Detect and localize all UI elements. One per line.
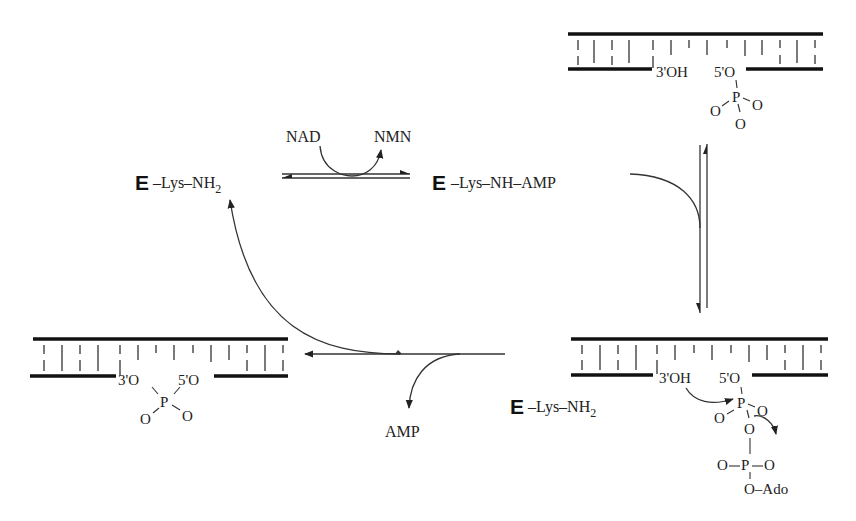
oxygen-right: O xyxy=(182,408,193,424)
oxygen-bottom: O xyxy=(735,116,746,132)
phosphorus: P xyxy=(160,394,168,410)
oxygen-left-1: O xyxy=(714,410,725,426)
oxygen-left-2: O xyxy=(717,457,728,473)
base-pair-ticks xyxy=(44,345,283,375)
three-prime-o: 3'O xyxy=(118,372,139,388)
oxygen-left: O xyxy=(140,411,151,427)
lys-nh2-label: –Lys–NH2 xyxy=(152,174,221,196)
enzyme-label: E xyxy=(510,395,524,418)
amp-release-arrow xyxy=(409,354,460,408)
enzyme-label: E xyxy=(135,171,149,194)
bridge-oxygen: O xyxy=(744,421,755,437)
adenylate-transfer-curve xyxy=(630,174,700,228)
base-pair-ticks xyxy=(578,40,815,68)
oxygen-left: O xyxy=(710,103,721,119)
enzyme-label: E xyxy=(432,171,446,194)
lys-nh2-label: –Lys–NH2 xyxy=(527,398,596,420)
o-adenosine: O–Ado xyxy=(744,481,788,497)
nad-exchange: NAD NMN xyxy=(282,128,412,178)
ligase-mechanism-diagram: 3'OH 5'O P O O O E –Lys–NH2 NAD NMN E –L… xyxy=(0,0,856,521)
nad-label: NAD xyxy=(286,128,321,145)
enzyme-adenylate: E –Lys–NH–AMP xyxy=(432,171,556,194)
nucleophilic-attack-arrow xyxy=(686,388,733,402)
five-prime-o: 5'O xyxy=(719,370,740,386)
nicked-dna: 3'OH 5'O P O O O xyxy=(568,34,823,132)
lys-nh-amp-label: –Lys–NH–AMP xyxy=(450,174,556,192)
oxygen-right: O xyxy=(752,97,763,113)
phosphorus-1: P xyxy=(737,395,745,411)
enzyme-recycle-arrow xyxy=(230,200,400,354)
enzyme-free-bottom: E –Lys–NH2 xyxy=(510,395,596,420)
oxygen-right-2: O xyxy=(764,457,775,473)
nad-to-nmn-arc xyxy=(320,146,381,176)
five-prime-o: 5'O xyxy=(714,64,735,80)
phosphorus-2: P xyxy=(741,457,749,473)
amp-label: AMP xyxy=(385,423,420,440)
three-prime-oh: 3'OH xyxy=(659,370,691,386)
base-pair-ticks xyxy=(582,345,821,374)
adenylated-dna: 3'OH 5'O P O O O O P O O–Ado xyxy=(571,339,828,497)
three-prime-oh: 3'OH xyxy=(656,64,688,80)
phosphorus: P xyxy=(732,89,740,105)
nmn-label: NMN xyxy=(374,128,412,145)
enzyme-free-top: E –Lys–NH2 xyxy=(135,171,221,196)
sealed-dna: 3'O 5'O P O O xyxy=(30,339,288,427)
five-prime-o: 5'O xyxy=(178,372,199,388)
